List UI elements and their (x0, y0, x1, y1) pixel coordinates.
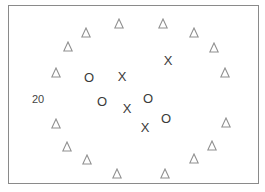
cross-marker: X (118, 70, 127, 83)
triangle-icon (112, 168, 122, 179)
triangle-icon (189, 153, 199, 164)
triangle-icon (81, 27, 91, 38)
triangle-marker (160, 168, 170, 178)
triangle-icon (51, 118, 61, 129)
triangle-marker (62, 141, 72, 151)
cross-marker: X (141, 121, 150, 134)
triangle-marker (207, 140, 217, 150)
triangle-icon (82, 154, 92, 165)
triangle-icon (160, 168, 170, 179)
circle-marker: O (84, 71, 94, 84)
triangle-marker (81, 27, 91, 37)
cross-marker: X (123, 102, 132, 115)
triangle-marker (189, 153, 199, 163)
triangle-marker (82, 154, 92, 164)
circle-marker: O (161, 112, 171, 125)
triangle-marker (220, 67, 230, 77)
figure-label: 20 (32, 94, 44, 105)
triangle-icon (114, 18, 124, 29)
cross-marker: X (164, 54, 173, 67)
triangle-marker (209, 42, 219, 52)
triangle-marker (112, 168, 122, 178)
figure-frame (8, 5, 259, 184)
circle-marker: O (143, 92, 153, 105)
triangle-marker (114, 18, 124, 28)
circle-marker: O (97, 95, 107, 108)
triangle-icon (207, 140, 217, 151)
triangle-icon (62, 141, 72, 152)
triangle-marker (189, 27, 199, 37)
triangle-icon (63, 41, 73, 52)
triangle-marker (51, 118, 61, 128)
triangle-marker (158, 18, 168, 28)
triangle-icon (209, 42, 219, 53)
triangle-marker (51, 67, 61, 77)
triangle-icon (189, 27, 199, 38)
triangle-marker (63, 41, 73, 51)
triangle-marker (221, 117, 231, 127)
triangle-icon (51, 67, 61, 78)
triangle-icon (158, 18, 168, 29)
triangle-icon (220, 67, 230, 78)
triangle-icon (221, 117, 231, 128)
